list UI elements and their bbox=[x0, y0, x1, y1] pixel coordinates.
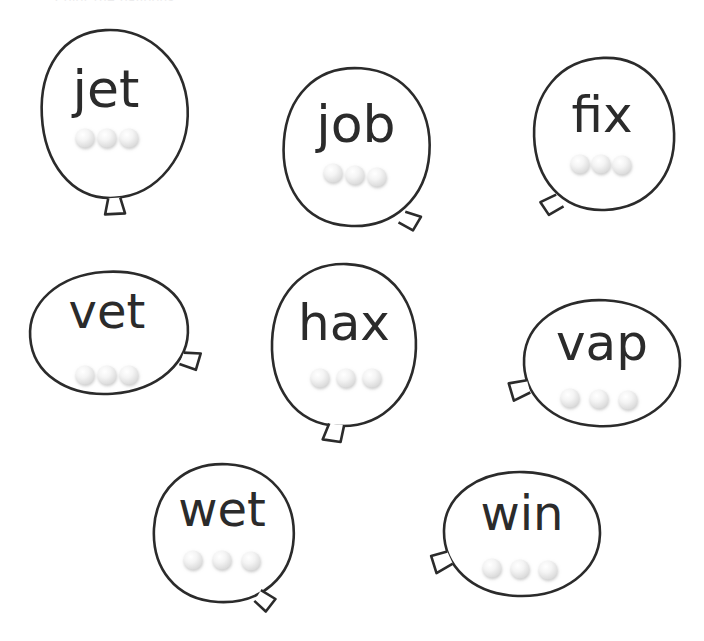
balloon-knot bbox=[104, 197, 125, 214]
balloon-dots bbox=[76, 366, 139, 385]
balloon-dots bbox=[184, 551, 261, 571]
balloon-word-text: jet bbox=[72, 59, 140, 119]
balloon-knot bbox=[398, 211, 421, 230]
balloon-wet[interactable]: wet bbox=[148, 458, 313, 623]
balloon-fix[interactable]: fix bbox=[524, 52, 694, 227]
balloon-dots bbox=[76, 129, 139, 148]
balloon-vet[interactable]: vet bbox=[22, 266, 212, 416]
balloon-dots bbox=[311, 369, 382, 388]
balloon-dots bbox=[571, 155, 632, 175]
balloon-dots bbox=[483, 559, 558, 580]
balloon-jet[interactable]: jet bbox=[30, 22, 210, 227]
balloon-knot bbox=[508, 379, 531, 401]
balloon-knot bbox=[323, 423, 345, 442]
balloon-word-text: hax bbox=[298, 294, 390, 352]
balloon-word-text: job bbox=[315, 94, 395, 154]
balloon-word-text: vap bbox=[556, 314, 648, 372]
worksheet-instruction: Color the balloons bbox=[55, 0, 475, 1]
balloon-vap[interactable]: vap bbox=[498, 292, 698, 447]
balloon-job[interactable]: job bbox=[276, 62, 456, 247]
balloon-dots bbox=[561, 389, 638, 410]
balloon-word-text: wet bbox=[178, 481, 266, 537]
balloon-word-text: vet bbox=[69, 283, 146, 339]
balloon-word-text: fix bbox=[571, 86, 632, 144]
worksheet-canvas: Color the balloons jet bbox=[0, 0, 704, 641]
balloon-word-text: win bbox=[480, 485, 563, 541]
balloon-hax[interactable]: hax bbox=[264, 258, 444, 453]
balloon-win[interactable]: win bbox=[430, 464, 610, 614]
